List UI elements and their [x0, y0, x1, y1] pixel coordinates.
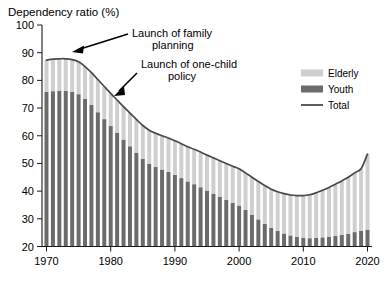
chart-container: Dependency ratio (%) 1009080706050403020… — [0, 0, 386, 286]
bar-segment-elderly — [224, 163, 228, 199]
legend-swatch-elderly — [301, 70, 323, 77]
bar-segment-youth — [346, 234, 350, 247]
bar-segment-elderly — [333, 184, 337, 236]
bar-segment-elderly — [244, 173, 248, 210]
legend-label-youth: Youth — [328, 84, 353, 95]
bar-segment-elderly — [353, 173, 357, 232]
bar-segment-elderly — [109, 93, 113, 126]
bar-segment-youth — [308, 238, 312, 246]
bar-segment-youth — [122, 140, 126, 247]
bar-segment-youth — [269, 228, 273, 247]
bar-segment-elderly — [269, 189, 273, 228]
bar-segment-elderly — [205, 155, 209, 190]
bar-segment-elderly — [295, 196, 299, 237]
bar-segment-youth — [186, 181, 190, 246]
bar-segment-youth — [83, 99, 87, 247]
bar-segment-elderly — [64, 59, 68, 91]
bar-segment-elderly — [51, 59, 55, 91]
bar-segment-elderly — [115, 100, 119, 133]
y-tick-label: 80 — [22, 74, 34, 86]
bar-segment-youth — [173, 175, 177, 247]
bar-segment-elderly — [102, 86, 106, 119]
y-axis-title: Dependency ratio (%) — [8, 6, 119, 18]
y-tick-label: 70 — [22, 102, 34, 114]
bar-segment-elderly — [77, 62, 81, 94]
annotation-one-child-line1: Launch of one-child — [141, 58, 237, 70]
annotation-one-child-line2: policy — [168, 70, 197, 82]
bar-segment-elderly — [128, 113, 132, 146]
bar-segment-elderly — [301, 196, 305, 238]
bar-segment-elderly — [70, 60, 74, 92]
legend-label-elderly: Elderly — [328, 68, 359, 79]
bar-segment-youth — [301, 238, 305, 247]
y-tick-label: 90 — [22, 47, 34, 59]
bar-segment-youth — [134, 153, 138, 247]
bar-segment-youth — [147, 164, 151, 247]
bar-segment-elderly — [57, 59, 61, 91]
bar-segment-youth — [57, 91, 61, 247]
bar-segment-elderly — [147, 130, 151, 164]
bar-segment-elderly — [282, 194, 286, 234]
y-tick-label: 60 — [22, 130, 34, 142]
bar-segment-youth — [205, 191, 209, 247]
bar-segment-elderly — [288, 195, 292, 235]
bar-segment-elderly — [83, 67, 87, 99]
bar-segment-elderly — [199, 152, 203, 187]
bar-segment-elderly — [134, 119, 138, 152]
bar-segment-elderly — [179, 144, 183, 178]
bar-segment-youth — [327, 237, 331, 247]
bar-segment-elderly — [346, 177, 350, 233]
bar-segment-youth — [295, 237, 299, 247]
bar-segment-elderly — [122, 107, 126, 140]
y-tick-label: 50 — [22, 157, 34, 169]
bar-segment-elderly — [173, 141, 177, 175]
bar-segment-youth — [263, 224, 267, 247]
bar-segment-youth — [166, 172, 170, 246]
bar-segment-youth — [211, 194, 215, 247]
bar-segment-youth — [359, 231, 363, 247]
bar-segment-youth — [96, 112, 100, 246]
bar-segment-youth — [237, 206, 241, 247]
bar-segment-elderly — [314, 193, 318, 238]
bar-segment-youth — [340, 235, 344, 247]
bar-segment-youth — [141, 159, 145, 246]
bar-segment-youth — [51, 91, 55, 246]
bar-segment-youth — [224, 200, 228, 247]
bar-segment-youth — [192, 184, 196, 246]
annotation-family-planning-line2: planning — [152, 39, 194, 51]
bar-segment-elderly — [160, 136, 164, 170]
bar-segment-youth — [256, 219, 260, 246]
bar-segment-elderly — [192, 149, 196, 184]
bar-segment-youth — [115, 133, 119, 247]
x-tick-label: 2000 — [227, 255, 251, 267]
x-tick-label: 1990 — [163, 255, 187, 267]
bar-segment-youth — [199, 187, 203, 246]
x-tick-label: 2020 — [355, 255, 379, 267]
bar-segment-elderly — [166, 138, 170, 172]
bar-segment-youth — [244, 210, 248, 247]
x-tick-label: 2010 — [291, 255, 315, 267]
bar-segment-youth — [70, 92, 74, 247]
bar-segment-youth — [321, 237, 325, 246]
bar-segment-elderly — [186, 147, 190, 182]
bar-segment-elderly — [231, 166, 235, 203]
bar-segment-elderly — [45, 60, 49, 92]
legend-label-total: Total — [328, 100, 349, 111]
bar-segment-youth — [333, 236, 337, 247]
bar-segment-youth — [288, 235, 292, 246]
y-tick-label: 20 — [22, 241, 34, 253]
bar-segment-elderly — [256, 181, 260, 219]
x-tick-label: 1980 — [98, 255, 122, 267]
bar-segment-elderly — [308, 195, 312, 238]
bar-segment-youth — [314, 238, 318, 247]
bar-segment-youth — [154, 167, 158, 246]
bar-segment-youth — [231, 203, 235, 247]
y-tick-label: 30 — [22, 213, 34, 225]
bar-segment-youth — [276, 231, 280, 247]
bar-segment-elderly — [89, 73, 93, 105]
bar-segment-elderly — [237, 169, 241, 206]
bar-segment-elderly — [154, 133, 158, 167]
bar-segment-elderly — [276, 192, 280, 231]
bar-segment-elderly — [141, 126, 145, 160]
bar-segment-youth — [89, 105, 93, 246]
